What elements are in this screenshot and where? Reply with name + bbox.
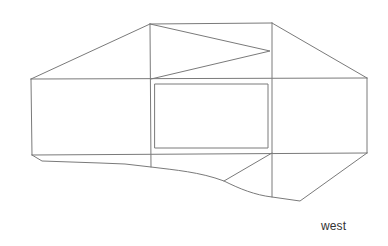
diagram-canvas: west bbox=[0, 0, 388, 246]
roof-top-edge bbox=[150, 23, 272, 24]
left-wall bbox=[31, 79, 32, 155]
elevation-label: west bbox=[321, 219, 346, 233]
lower-diagonal bbox=[224, 153, 272, 181]
base-line bbox=[32, 153, 367, 155]
ground-profile bbox=[32, 153, 367, 201]
roof-right-slope bbox=[272, 23, 367, 78]
west-elevation-drawing bbox=[0, 0, 388, 246]
window-rect bbox=[155, 84, 268, 148]
upper-triangle bbox=[150, 24, 270, 79]
center-left-vertical bbox=[150, 24, 151, 167]
roof-left-slope bbox=[31, 24, 150, 79]
eave-line bbox=[31, 78, 367, 79]
